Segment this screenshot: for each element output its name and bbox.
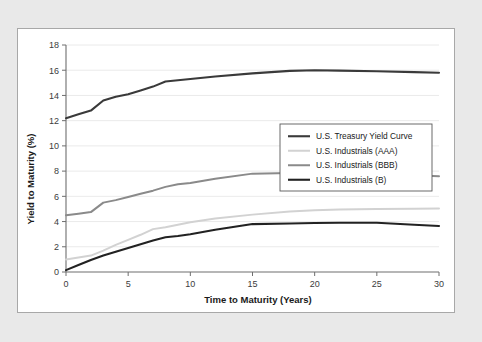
y-tick-label-16: 16 (49, 66, 59, 76)
x-tick-label-25: 25 (372, 279, 382, 289)
x-tick-label-5: 5 (126, 279, 131, 289)
chart-panel: 024681012141618 051015202530 Yield to Ma… (17, 28, 455, 313)
y-axis-title: Yield to Maturity (%) (25, 134, 36, 225)
yield-curve-chart: 024681012141618 051015202530 Yield to Ma… (18, 29, 454, 312)
x-tick-label-10: 10 (185, 279, 195, 289)
x-tick-label-0: 0 (63, 279, 68, 289)
legend-label-0: U.S. Treasury Yield Curve (316, 131, 413, 141)
y-tick-label-0: 0 (54, 267, 59, 277)
y-tick-label-18: 18 (49, 40, 59, 50)
legend-label-1: U.S. Industrials (AAA) (316, 146, 398, 156)
y-tick-label-10: 10 (49, 141, 59, 151)
legend-label-2: U.S. Industrials (BBB) (316, 160, 398, 170)
x-axis-title: Time to Maturity (Years) (204, 294, 312, 305)
y-tick-label-6: 6 (54, 192, 59, 202)
series-line-u-s-industrials-aaa (66, 209, 439, 260)
series-line-u-s-treasury-yield-curve (66, 70, 439, 118)
y-tick-label-14: 14 (49, 91, 59, 101)
chart-legend: U.S. Treasury Yield CurveU.S. Industrial… (280, 124, 432, 191)
y-tick-label-2: 2 (54, 242, 59, 252)
y-tick-label-8: 8 (54, 166, 59, 176)
legend-label-3: U.S. Industrials (B) (316, 175, 386, 185)
x-tick-label-20: 20 (310, 279, 320, 289)
y-tick-label-12: 12 (49, 116, 59, 126)
x-tick-label-30: 30 (434, 279, 444, 289)
x-tick-label-15: 15 (247, 279, 257, 289)
x-tick-labels: 051015202530 (63, 279, 444, 289)
y-tick-label-4: 4 (54, 217, 59, 227)
y-tick-labels: 024681012141618 (49, 40, 59, 277)
